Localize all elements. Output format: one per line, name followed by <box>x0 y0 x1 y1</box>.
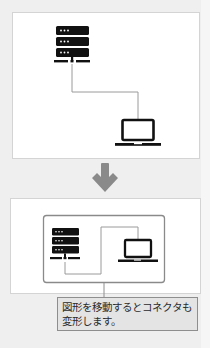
callout-note: 図形を移動するとコネクタも 変形します。 <box>57 297 198 331</box>
arrow-down-icon <box>92 163 118 192</box>
server-icon[interactable] <box>54 26 90 62</box>
laptop-icon[interactable] <box>115 120 161 146</box>
connector-before[interactable] <box>72 64 138 119</box>
callout-text-line2: 変形します。 <box>62 314 193 328</box>
diagram-canvas <box>0 0 210 348</box>
callout-text-line1: 図形を移動するとコネクタも <box>62 300 193 314</box>
